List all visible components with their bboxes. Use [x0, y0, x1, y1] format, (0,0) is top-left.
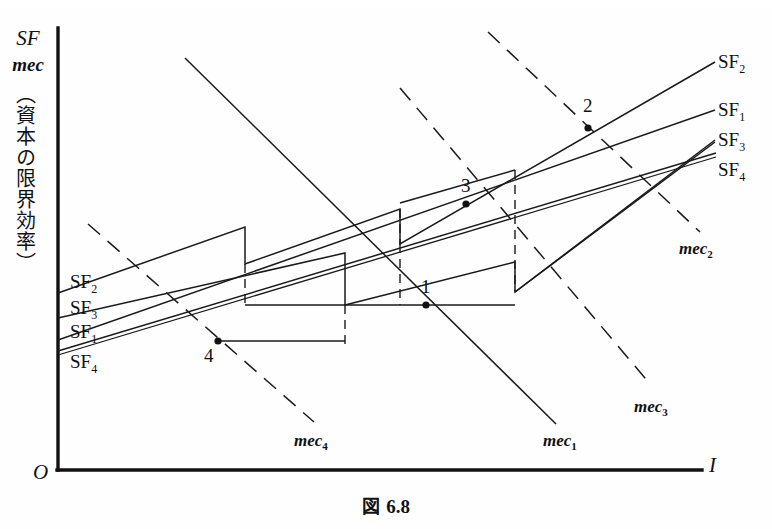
curve-sf2-path: [58, 62, 715, 293]
mec2-label-text: mec: [679, 239, 707, 258]
x-axis-label: I: [709, 455, 716, 476]
sf1-label-left-sub: 1: [91, 332, 97, 346]
sf1-label-left-text: SF: [70, 321, 91, 342]
sf4-label-left-text: SF: [70, 351, 91, 372]
equilibrium-points-group: [214, 124, 591, 344]
curve-sf4-path-b: [58, 157, 716, 355]
mec2-label-sub: 2: [707, 248, 713, 260]
mec2-label: mec2: [679, 240, 713, 260]
point-label-2: 2: [583, 96, 593, 115]
point-marker-3: [462, 200, 469, 207]
point-marker-4: [214, 337, 221, 344]
sf3-label-right-text: SF: [718, 129, 739, 150]
point-label-1: 1: [421, 277, 431, 296]
point-label-4: 4: [204, 346, 214, 365]
curve-sf3-path: [58, 140, 715, 318]
sf2-label-left-sub: 2: [91, 282, 97, 296]
curve-sf4: [58, 153, 716, 355]
figure-caption: 図 6.8: [0, 492, 772, 518]
y-axis-vertical-japanese-label: （資本の限界効率）: [10, 84, 39, 384]
point-marker-1: [422, 301, 429, 308]
sf3-label-left-sub: 3: [91, 308, 97, 322]
curve-mec4: [88, 224, 314, 422]
sf4-label-right-text: SF: [718, 159, 739, 180]
figure-container: SF mec （資本の限界効率） O I SF2 SF3 SF1 SF4 SF2…: [0, 0, 772, 529]
mec1-label-text: mec: [543, 431, 571, 450]
mec4-label: mec4: [294, 432, 328, 452]
sf4-label-right-sub: 4: [739, 170, 745, 184]
y-axis-title: SF mec: [6, 26, 50, 76]
mec4-label-sub: 4: [322, 440, 328, 452]
curve-mec2-line: [488, 32, 700, 232]
sf4-label-right: SF4: [718, 160, 745, 183]
sf3-label-right-sub: 3: [739, 140, 745, 154]
curve-sf4-path-a: [58, 153, 716, 351]
y-axis-title-sf: SF: [6, 26, 50, 51]
sf3-label-right: SF3: [718, 130, 745, 153]
sf2-label-right: SF2: [718, 52, 745, 75]
sf2-label-right-text: SF: [718, 51, 739, 72]
sf2-label-right-sub: 2: [739, 62, 745, 76]
sf1-label-right: SF1: [718, 100, 745, 123]
mec3-label: mec3: [634, 398, 668, 418]
curve-sf3: [58, 140, 715, 318]
mec1-label: mec1: [543, 432, 577, 452]
origin-label: O: [33, 462, 48, 483]
y-axis-title-mec: mec: [6, 54, 50, 76]
curve-sf2: [58, 62, 715, 293]
curve-mec3: [400, 88, 650, 384]
point-marker-2: [584, 124, 591, 131]
sf1-label-left: SF1: [70, 322, 97, 345]
curve-mec1: [185, 58, 556, 424]
curve-mec4-line: [88, 224, 314, 422]
sf2-label-left: SF2: [70, 272, 97, 295]
sf1-label-right-sub: 1: [739, 110, 745, 124]
sf4-label-left: SF4: [70, 352, 97, 375]
curve-mec2: [488, 32, 700, 232]
sf3-label-left-text: SF: [70, 297, 91, 318]
figure-caption-number: 6.8: [386, 496, 410, 517]
figure-caption-kanji: 図: [362, 496, 380, 517]
economics-diagram-svg: [0, 0, 772, 529]
point-label-3: 3: [461, 176, 471, 195]
step-brackets-group: [245, 170, 515, 348]
sf3-label-left: SF3: [70, 298, 97, 321]
mec3-label-sub: 3: [662, 406, 668, 418]
mec1-label-sub: 1: [571, 440, 577, 452]
mec3-label-text: mec: [634, 397, 662, 416]
sf2-label-left-text: SF: [70, 271, 91, 292]
curve-mec1-line: [185, 58, 556, 424]
curve-mec3-line: [400, 88, 650, 384]
sf4-label-left-sub: 4: [91, 362, 97, 376]
mec4-label-text: mec: [294, 431, 322, 450]
sf1-label-right-text: SF: [718, 99, 739, 120]
